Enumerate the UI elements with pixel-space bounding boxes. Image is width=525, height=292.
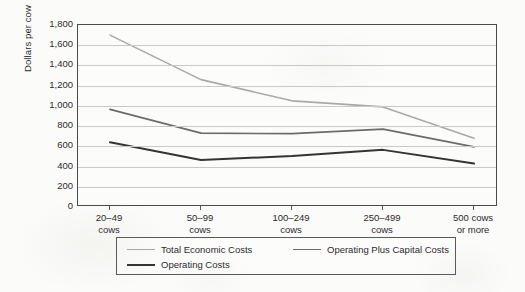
- x-axis-tick-mark: [473, 206, 474, 210]
- y-axis-tick-label: 1,600: [49, 39, 73, 49]
- gridline: [78, 86, 496, 87]
- x-axis-tick-label-line: 250–499: [364, 212, 401, 224]
- legend-item: Operating Plus Capital Costs: [293, 244, 449, 255]
- gridline: [78, 187, 496, 188]
- y-axis-tick-label: 200: [57, 181, 73, 191]
- legend-label: Operating Plus Capital Costs: [327, 244, 449, 255]
- y-axis-tick-label: 1,800: [49, 19, 73, 29]
- chart-legend: Total Economic CostsOperating Plus Capit…: [116, 237, 456, 275]
- y-axis-tick-label: 600: [57, 140, 73, 150]
- x-axis-tick-mark: [291, 206, 292, 210]
- x-axis-tick-label-line: 500 cows: [453, 212, 493, 224]
- x-axis-tick-label: 100–249cows: [273, 212, 310, 235]
- data-series-layer: [78, 25, 498, 207]
- legend-label: Operating Costs: [161, 259, 230, 270]
- gridline: [78, 45, 496, 46]
- y-axis-tick-label: 1,000: [49, 100, 73, 110]
- y-axis-tick-label: 1,400: [49, 59, 73, 69]
- x-axis-tick-label-line: cows: [273, 224, 310, 236]
- x-axis-tick-label-line: cows: [96, 224, 122, 236]
- series-line: [110, 109, 474, 146]
- legend-color-swatch: [293, 249, 321, 250]
- gridline: [78, 106, 496, 107]
- plot-area: [77, 24, 497, 206]
- x-axis-tick-label-line: 100–249: [273, 212, 310, 224]
- x-axis-tick-label-line: cows: [187, 224, 213, 236]
- legend-color-swatch: [127, 264, 155, 266]
- y-axis-tick-label: 1,200: [49, 80, 73, 90]
- x-axis-tick-mark: [200, 206, 201, 210]
- series-line: [110, 35, 474, 138]
- gridline: [78, 65, 496, 66]
- legend-item: Operating Costs: [127, 259, 230, 270]
- gridline: [78, 146, 496, 147]
- x-axis-tick-label: 20–49cows: [96, 212, 122, 235]
- y-axis-tick-labels: 1,8001,6001,4001,2001,0008006004002000: [28, 0, 73, 292]
- legend-item: Total Economic Costs: [127, 244, 252, 255]
- y-axis-tick-label: 800: [57, 120, 73, 130]
- x-axis-tick-label: 250–499cows: [364, 212, 401, 235]
- x-axis-tick-label-line: or more: [453, 224, 493, 236]
- x-axis-tick-label: 500 cowsor more: [453, 212, 493, 235]
- gridline: [78, 126, 496, 127]
- x-axis-tick-label-line: cows: [364, 224, 401, 236]
- y-axis-tick-label: 400: [57, 161, 73, 171]
- x-axis-tick-labels: 20–49cows50–99cows100–249cows250–499cows…: [77, 212, 497, 240]
- x-axis-tick-label-line: 50–99: [187, 212, 213, 224]
- x-axis-tick-mark: [382, 206, 383, 210]
- y-axis-tick-label: 0: [68, 201, 73, 211]
- x-axis-tick-label: 50–99cows: [187, 212, 213, 235]
- chart-figure: Dollars per cow 1,8001,6001,4001,2001,00…: [0, 0, 525, 292]
- legend-color-swatch: [127, 249, 155, 250]
- legend-label: Total Economic Costs: [161, 244, 252, 255]
- x-axis-tick-label-line: 20–49: [96, 212, 122, 224]
- x-axis-tick-mark: [109, 206, 110, 210]
- gridline: [78, 167, 496, 168]
